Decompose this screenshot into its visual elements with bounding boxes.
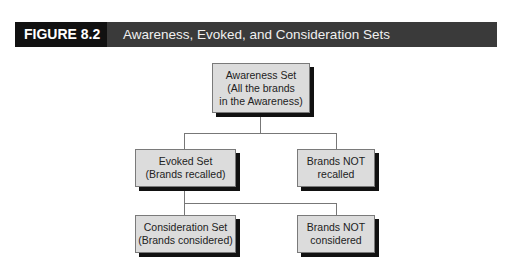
not-considered-line1: Brands NOT — [307, 221, 365, 234]
connector-to-not-recalled — [336, 133, 337, 149]
not-recalled-line2: recalled — [318, 168, 355, 181]
figure-header: FIGURE 8.2 Awareness, Evoked, and Consid… — [15, 22, 497, 47]
consideration-set-box: Consideration Set (Brands considered) — [135, 215, 236, 253]
evoked-line1: Evoked Set — [159, 155, 213, 168]
awareness-line3: in the Awareness) — [219, 95, 302, 108]
awareness-set-box: Awareness Set (All the brands in the Awa… — [212, 63, 310, 113]
figure-title: Awareness, Evoked, and Consideration Set… — [123, 22, 390, 47]
connector-to-evoked — [184, 133, 185, 149]
consideration-line1: Consideration Set — [144, 221, 227, 234]
connector-level2-horizontal — [184, 203, 337, 204]
connector-awareness-down — [260, 113, 261, 133]
not-recalled-line1: Brands NOT — [307, 155, 365, 168]
connector-evoked-down — [184, 191, 185, 203]
connector-to-not-considered — [336, 203, 337, 215]
figure-label: FIGURE 8.2 — [15, 22, 107, 47]
evoked-set-box: Evoked Set (Brands recalled) — [135, 149, 236, 187]
awareness-line1: Awareness Set — [226, 69, 296, 82]
connector-to-consideration — [184, 203, 185, 215]
evoked-line2: (Brands recalled) — [146, 168, 226, 181]
consideration-line2: (Brands considered) — [138, 234, 233, 247]
not-recalled-box: Brands NOT recalled — [297, 149, 375, 187]
connector-level1-horizontal — [184, 133, 337, 134]
awareness-line2: (All the brands — [227, 82, 295, 95]
not-considered-line2: considered — [310, 234, 361, 247]
not-considered-box: Brands NOT considered — [297, 215, 375, 253]
